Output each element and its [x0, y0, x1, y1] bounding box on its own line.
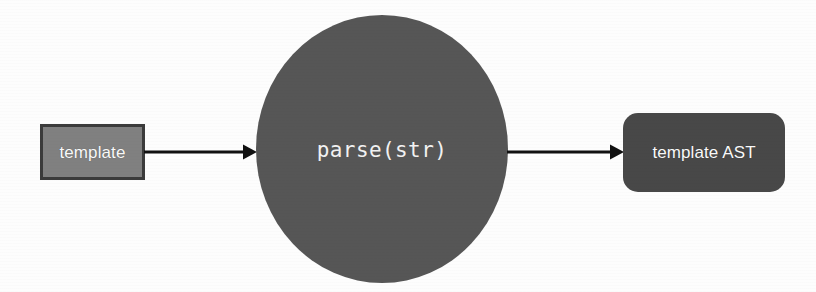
- node-parse-label: parse(str): [317, 140, 447, 161]
- node-parse[interactable]: parse(str): [256, 15, 508, 283]
- edge-parse-to-ast: [507, 140, 625, 164]
- node-template-ast[interactable]: template AST: [623, 113, 785, 192]
- arrow-right-icon: [507, 140, 625, 164]
- edge-template-to-parse: [144, 140, 258, 164]
- node-template[interactable]: template: [40, 124, 145, 180]
- node-template-label: template: [59, 144, 125, 161]
- diagram-canvas: template parse(str) template AST: [0, 0, 816, 292]
- arrow-right-icon: [144, 140, 258, 164]
- node-template-ast-label: template AST: [652, 144, 755, 161]
